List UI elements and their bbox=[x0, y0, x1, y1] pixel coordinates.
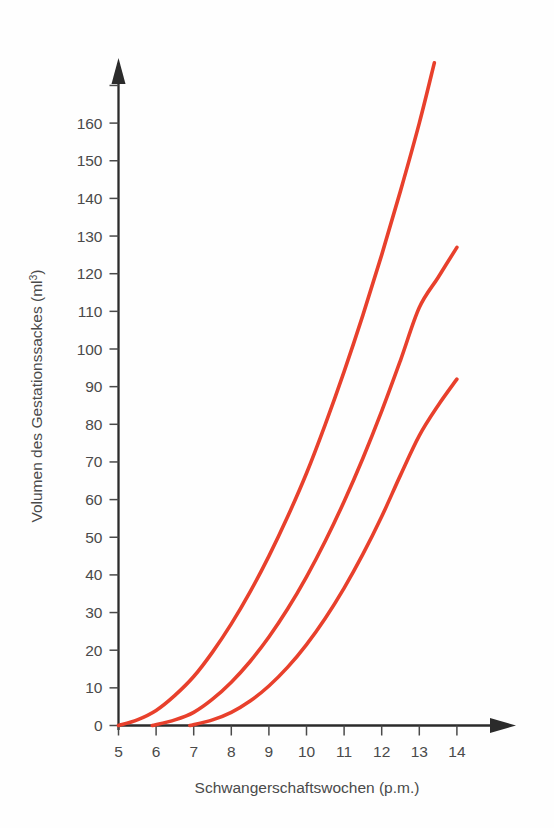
y-tick-label: 20 bbox=[85, 642, 103, 659]
y-axis-title-close: ) bbox=[28, 269, 45, 274]
x-tick-label: 13 bbox=[411, 743, 428, 760]
y-tick-label: 90 bbox=[85, 378, 103, 395]
y-axis-title: Volumen des Gestationssackes (ml3) bbox=[27, 269, 45, 522]
y-tick-label: 10 bbox=[85, 679, 103, 696]
y-tick-label: 150 bbox=[77, 152, 103, 169]
y-axis-ticks: 0102030405060708090100110120130140150160 bbox=[77, 85, 119, 734]
y-tick-label: 60 bbox=[85, 491, 103, 508]
curve-series-2 bbox=[152, 247, 457, 725]
y-tick-label: 70 bbox=[85, 453, 103, 470]
x-tick-label: 5 bbox=[114, 743, 123, 760]
x-tick-label: 14 bbox=[448, 743, 466, 760]
gestational-sac-volume-chart: 0102030405060708090100110120130140150160… bbox=[0, 0, 554, 828]
x-tick-label: 11 bbox=[336, 743, 352, 760]
x-tick-label: 12 bbox=[373, 743, 390, 760]
x-axis-arrow-icon bbox=[490, 718, 516, 733]
y-tick-label: 110 bbox=[78, 303, 103, 320]
y-tick-label: 140 bbox=[77, 190, 103, 207]
y-tick-label: 160 bbox=[77, 115, 103, 132]
y-axis-arrow-icon bbox=[112, 58, 126, 84]
chart-figure: 0102030405060708090100110120130140150160… bbox=[0, 0, 554, 828]
y-tick-label: 80 bbox=[85, 416, 103, 433]
y-axis bbox=[112, 58, 126, 730]
y-axis-title-base: Volumen des Gestationssackes (ml bbox=[28, 280, 45, 522]
x-tick-label: 7 bbox=[189, 743, 198, 760]
y-tick-label: 50 bbox=[85, 529, 103, 546]
x-tick-label: 8 bbox=[227, 743, 236, 760]
y-tick-label: 0 bbox=[94, 717, 103, 734]
y-tick-label: 100 bbox=[77, 341, 103, 358]
x-tick-label: 10 bbox=[298, 743, 316, 760]
y-tick-label: 130 bbox=[77, 228, 103, 245]
x-tick-label: 6 bbox=[152, 743, 161, 760]
x-axis-ticks: 567891011121314 bbox=[114, 726, 466, 760]
y-tick-label: 30 bbox=[85, 604, 103, 621]
x-axis-title: Schwangerschaftswochen (p.m.) bbox=[195, 779, 420, 796]
y-tick-label: 120 bbox=[77, 265, 103, 282]
data-curves bbox=[119, 63, 457, 726]
x-tick-label: 9 bbox=[265, 743, 274, 760]
y-tick-label: 40 bbox=[85, 566, 103, 583]
